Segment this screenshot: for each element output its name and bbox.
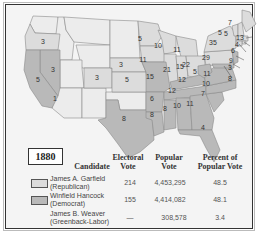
svg-text:8: 8: [228, 75, 232, 82]
svg-text:8: 8: [150, 111, 154, 118]
candidate-garfield: James A. Garfield(Republican): [50, 175, 105, 191]
header-electoral-vote: ElectoralVote: [112, 153, 144, 171]
svg-text:6: 6: [231, 47, 235, 54]
svg-text:1: 1: [53, 95, 57, 102]
republican-swatch: [31, 179, 48, 188]
candidate-hancock: Winfield Hancock(Democrat): [50, 192, 104, 208]
header-percent-popular-vote: Percent ofPopular Vote: [192, 153, 248, 171]
hancock-percent: 48.1: [208, 196, 232, 204]
democrat-swatch: [31, 196, 48, 205]
svg-text:8: 8: [163, 105, 167, 112]
weaver-popular: 308,578: [154, 214, 194, 222]
svg-text:3: 3: [51, 66, 55, 73]
svg-text:4: 4: [235, 41, 239, 48]
svg-text:3: 3: [95, 74, 99, 81]
state-arkansas: [146, 92, 164, 112]
garfield-popular: 4,453,295: [150, 179, 190, 187]
svg-text:10: 10: [173, 102, 181, 109]
svg-text:12: 12: [168, 87, 176, 94]
svg-text:5: 5: [218, 29, 222, 36]
svg-text:5: 5: [138, 35, 142, 42]
svg-text:22: 22: [182, 61, 190, 68]
svg-text:11: 11: [186, 100, 193, 107]
svg-text:3: 3: [228, 64, 232, 71]
svg-text:8: 8: [122, 115, 126, 122]
state-maine: [242, 10, 256, 32]
state-kansas: [112, 72, 148, 92]
year-label: 1880: [28, 148, 63, 165]
svg-text:5: 5: [125, 76, 129, 83]
candidate-weaver: James B. Weaver(Greenback-Labor): [50, 210, 109, 226]
svg-text:11: 11: [203, 70, 210, 77]
svg-text:9: 9: [229, 57, 233, 64]
state-rhode-island: [242, 41, 246, 44]
garfield-percent: 48.5: [208, 179, 232, 187]
header-popular-vote: PopularVote: [149, 153, 189, 171]
hancock-electoral: 155: [120, 196, 140, 204]
svg-text:35: 35: [209, 39, 217, 46]
svg-text:11: 11: [139, 56, 146, 63]
svg-text:12: 12: [178, 76, 186, 83]
svg-text:7: 7: [201, 90, 205, 97]
svg-text:21: 21: [163, 66, 171, 73]
garfield-electoral: 214: [120, 179, 140, 187]
weaver-electoral: —: [120, 214, 140, 222]
svg-text:3: 3: [41, 38, 45, 45]
weaver-percent: 3.4: [208, 214, 232, 222]
svg-text:11: 11: [173, 46, 180, 53]
washington-territory: [30, 16, 60, 34]
svg-text:4: 4: [201, 124, 205, 131]
svg-text:15: 15: [146, 73, 154, 80]
svg-text:13: 13: [236, 34, 244, 41]
svg-text:10: 10: [154, 42, 162, 49]
svg-text:5: 5: [193, 68, 197, 75]
svg-text:7: 7: [228, 19, 232, 26]
svg-text:10: 10: [202, 80, 210, 87]
hancock-popular: 4,414,082: [150, 196, 190, 204]
svg-text:6: 6: [150, 95, 154, 102]
svg-text:3: 3: [119, 61, 123, 68]
svg-text:29: 29: [202, 54, 210, 61]
svg-text:5: 5: [36, 76, 40, 83]
svg-text:5: 5: [224, 30, 228, 37]
utah-territory: [60, 60, 84, 88]
new-mexico-territory: [82, 88, 106, 118]
dakota-territory: [110, 20, 140, 58]
